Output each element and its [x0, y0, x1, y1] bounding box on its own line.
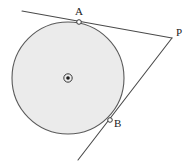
- point-p-label: P: [176, 27, 182, 38]
- point-a-marker: [77, 20, 82, 25]
- point-a-label: A: [75, 6, 83, 17]
- center-dot-icon: [66, 76, 70, 80]
- point-b-marker: [108, 118, 113, 123]
- point-b-label: B: [114, 118, 121, 129]
- geometry-figure: A B P: [0, 0, 195, 165]
- geometry-canvas: [0, 0, 195, 165]
